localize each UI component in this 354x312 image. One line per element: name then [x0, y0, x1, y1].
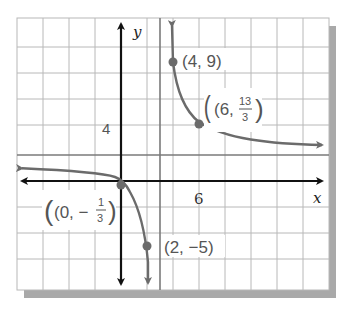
point-label-2-neg5: (2, −5) [164, 238, 214, 257]
point-label-6-num: 13 [239, 95, 251, 107]
point-label-0-den: 3 [97, 212, 103, 224]
point-label-0: (0, − [54, 203, 89, 222]
y-axis-label: y [132, 23, 142, 41]
point-label-0-paren-close: ) [108, 196, 117, 226]
point-2-neg5 [143, 242, 152, 251]
tick-label-y4: 4 [102, 120, 110, 137]
point-label-4-9: (4, 9) [182, 52, 222, 71]
point-4-9 [169, 58, 178, 67]
point-label-6-den: 3 [242, 111, 248, 123]
tick-label-x6: 6 [194, 190, 204, 208]
point-label-0-paren: ( [44, 195, 54, 226]
x-axis-label: x [313, 189, 322, 207]
point-0-neg1third [117, 181, 126, 190]
point-label-6-paren-close: ) [255, 94, 264, 124]
point-6-13thirds [195, 120, 204, 129]
point-label-6: (6, [214, 100, 234, 119]
rational-function-graph: y x 4 6 (4, 9) ( (6, 13 3 ) ( (0, − 1 3 … [0, 0, 354, 312]
point-label-0-num: 1 [98, 196, 104, 208]
point-label-6-paren: ( [204, 90, 211, 122]
